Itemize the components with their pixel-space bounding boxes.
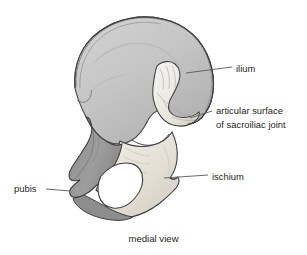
anatomical-figure: ilium articular surface of sacroiliac jo…	[0, 0, 307, 255]
label-sacroiliac-line2: of sacroiliac joint	[216, 118, 286, 132]
label-pubis-text: pubis	[14, 183, 37, 194]
label-articular-surface-sacroiliac-joint: articular surface of sacroiliac joint	[216, 104, 286, 131]
figure-caption: medial view	[0, 233, 307, 244]
region-ilium	[75, 17, 214, 144]
label-pubis: pubis	[14, 182, 37, 196]
label-ischium-text: ischium	[212, 171, 244, 182]
label-ilium: ilium	[236, 62, 255, 76]
label-ilium-text: ilium	[236, 63, 255, 74]
leader-line-pubis	[46, 189, 70, 191]
label-sacroiliac-line1: articular surface	[216, 105, 283, 116]
label-ischium: ischium	[212, 170, 244, 184]
